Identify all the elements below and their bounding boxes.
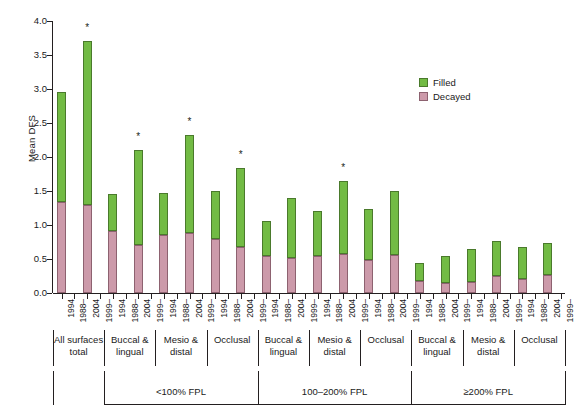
income-group-divider — [53, 371, 54, 405]
bar-stack[interactable] — [339, 181, 348, 293]
x-axis-tick-label: 2004 — [501, 299, 511, 318]
x-axis-tick-label: 2004 — [450, 299, 460, 318]
bar-segment-decayed[interactable] — [134, 245, 143, 293]
x-axis-tick-label: 2004 — [245, 299, 255, 318]
x-tick-mark — [561, 294, 562, 299]
legend-label-decayed: Decayed — [433, 91, 471, 102]
y-tick-label: 2.5 — [17, 117, 47, 128]
bar-segment-decayed[interactable] — [236, 247, 245, 293]
bar-segment-decayed[interactable] — [467, 282, 476, 293]
y-tick-label: 0.0 — [17, 287, 47, 298]
bar-segment-decayed[interactable] — [518, 279, 527, 293]
x-axis-tick-label: 1999– — [155, 299, 165, 322]
x-axis-tick-label: 1988– — [181, 299, 191, 322]
x-axis-tick-label: 1988– — [130, 299, 140, 322]
bar-segment-decayed[interactable] — [543, 275, 552, 293]
x-axis-tick-label: 1994 — [322, 299, 332, 318]
bar-segment-filled[interactable] — [518, 247, 527, 279]
bar-segment-filled[interactable] — [492, 241, 501, 276]
bar-segment-filled[interactable] — [287, 198, 296, 258]
surface-group-label: Buccal & lingual — [104, 334, 155, 357]
bar-segment-decayed[interactable] — [57, 202, 66, 293]
bar-stack[interactable] — [441, 256, 450, 293]
bar-segment-filled[interactable] — [211, 191, 220, 239]
bar-segment-decayed[interactable] — [364, 260, 373, 293]
bar-segment-decayed[interactable] — [211, 239, 220, 293]
significance-star: * — [341, 163, 345, 173]
significance-star: * — [136, 132, 140, 142]
bar-segment-decayed[interactable] — [390, 255, 399, 293]
x-axis-tick-label: 2004 — [347, 299, 357, 318]
surface-group-label: Buccal & lingual — [258, 334, 309, 357]
x-axis-tick-label: 1999– — [258, 299, 268, 322]
bar-segment-decayed[interactable] — [339, 254, 348, 293]
bar-segment-filled[interactable] — [83, 41, 92, 206]
bar-segment-decayed[interactable] — [185, 233, 194, 293]
surface-group-label: Mesio & distal — [309, 334, 360, 357]
bar-segment-filled[interactable] — [339, 181, 348, 254]
bar-segment-filled[interactable] — [467, 249, 476, 282]
bar-stack[interactable] — [262, 221, 271, 293]
bar-segment-decayed[interactable] — [415, 281, 424, 293]
bar-stack[interactable] — [364, 209, 373, 293]
bar-segment-filled[interactable] — [159, 193, 168, 234]
x-tick-mark — [433, 294, 434, 299]
bar-segment-filled[interactable] — [390, 191, 399, 255]
bar-segment-decayed[interactable] — [313, 256, 322, 293]
bar-stack[interactable] — [467, 249, 476, 293]
bar-stack[interactable] — [159, 193, 168, 293]
surface-group-label: Buccal & lingual — [411, 334, 462, 357]
y-axis-title: Mean DFS — [26, 94, 37, 184]
bar-segment-filled[interactable] — [57, 92, 66, 201]
bar-segment-filled[interactable] — [185, 135, 194, 234]
income-group-label: <100% FPL — [104, 386, 258, 397]
bar-stack[interactable] — [185, 135, 194, 293]
x-tick-mark — [215, 294, 216, 299]
bar-segment-filled[interactable] — [262, 221, 271, 256]
bar-segment-filled[interactable] — [543, 243, 552, 274]
bar-segment-filled[interactable] — [134, 150, 143, 246]
x-tick-mark — [420, 294, 421, 299]
bar-stack[interactable] — [390, 191, 399, 293]
bar-segment-filled[interactable] — [313, 211, 322, 255]
bar-segment-decayed[interactable] — [262, 256, 271, 293]
x-axis-tick-label: 1999– — [309, 299, 319, 322]
bar-stack[interactable] — [211, 191, 220, 293]
y-tick-mark — [47, 191, 52, 192]
bar-stack[interactable] — [134, 150, 143, 293]
bar-stack[interactable] — [236, 168, 245, 293]
bar-stack[interactable] — [287, 198, 296, 293]
x-axis-tick-label: 2004 — [552, 299, 562, 318]
bar-stack[interactable] — [518, 247, 527, 293]
bar-stack[interactable] — [57, 92, 66, 293]
bar-segment-filled[interactable] — [364, 209, 373, 260]
x-axis-tick-label: 1988– — [488, 299, 498, 322]
x-axis-tick-label: 2004 — [194, 299, 204, 318]
x-tick-mark — [446, 294, 447, 299]
income-band-baseline — [104, 404, 565, 405]
x-tick-mark — [164, 294, 165, 299]
x-axis-tick-label: 2004 — [91, 299, 101, 318]
bar-segment-decayed[interactable] — [108, 231, 117, 293]
bar-segment-filled[interactable] — [415, 263, 424, 281]
bar-stack[interactable] — [108, 194, 117, 293]
bar-segment-decayed[interactable] — [492, 276, 501, 293]
bar-stack[interactable] — [415, 263, 424, 293]
significance-star: * — [239, 150, 243, 160]
bar-stack[interactable] — [313, 211, 322, 293]
bar-segment-filled[interactable] — [441, 256, 450, 284]
chart-legend: Filled Decayed — [419, 77, 471, 105]
x-tick-mark — [177, 294, 178, 299]
x-tick-mark — [62, 294, 63, 299]
bar-segment-filled[interactable] — [236, 168, 245, 248]
bar-segment-decayed[interactable] — [159, 235, 168, 293]
x-tick-mark — [522, 294, 523, 299]
bar-segment-decayed[interactable] — [83, 205, 92, 293]
bar-stack[interactable] — [492, 241, 501, 293]
bar-stack[interactable] — [83, 41, 92, 293]
bar-segment-decayed[interactable] — [441, 283, 450, 293]
bar-stack[interactable] — [543, 243, 552, 293]
bar-segment-decayed[interactable] — [287, 258, 296, 293]
x-tick-mark — [382, 294, 383, 299]
bar-segment-filled[interactable] — [108, 194, 117, 231]
